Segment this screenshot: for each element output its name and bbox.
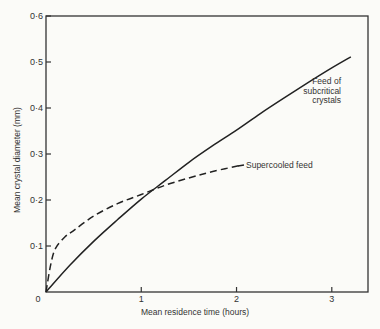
y-axis-title: Mean crystal diameter (mm) xyxy=(12,107,22,213)
y-tick-label: 0·5 xyxy=(30,57,43,67)
plot-border xyxy=(46,16,368,292)
x-axis-title: Mean residence time (hours) xyxy=(141,307,249,317)
x-axis-ticks: 123 xyxy=(139,287,335,304)
origin-label: 0 xyxy=(35,294,40,304)
annotation-subcritical: Feed ofsubcriticalcrystals xyxy=(303,76,341,105)
x-tick-label: 3 xyxy=(329,294,334,304)
y-axis-ticks: 0·10·20·30·40·50·6 xyxy=(30,11,51,251)
y-tick-label: 0·3 xyxy=(30,149,43,159)
annotations: Feed ofsubcriticalcrystalsSupercooled fe… xyxy=(238,76,342,170)
y-tick-label: 0·6 xyxy=(30,11,43,21)
y-tick-label: 0·2 xyxy=(30,195,43,205)
supercooled-feed-curve xyxy=(46,165,242,292)
y-tick-label: 0·4 xyxy=(30,103,43,113)
annotation-leader xyxy=(238,165,244,166)
plot-frame xyxy=(46,16,368,292)
x-tick-label: 2 xyxy=(234,294,239,304)
chart: 0·10·20·30·40·50·6 123 Feed ofsubcritica… xyxy=(0,0,380,329)
x-tick-label: 1 xyxy=(139,294,144,304)
y-tick-label: 0·1 xyxy=(30,241,43,251)
annotation-supercooled: Supercooled feed xyxy=(246,160,313,170)
